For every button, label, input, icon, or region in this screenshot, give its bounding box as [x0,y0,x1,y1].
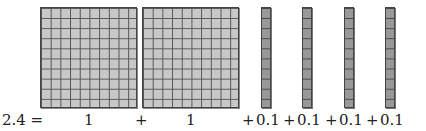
term-label-2: 1 [186,111,196,129]
plus-sign-1: + [135,111,148,129]
hundred-flat-1 [40,7,137,108]
plus-sign-4: + [325,111,338,129]
term-label-4: 0.1 [297,111,321,129]
tenth-rod-2 [302,7,312,108]
term-label-5: 0.1 [339,111,363,129]
plus-sign-3: + [283,111,296,129]
tenth-rod-3 [344,7,354,108]
hundred-flat-2 [142,7,239,108]
term-label-3: 0.1 [256,111,280,129]
term-label-1: 1 [84,111,94,129]
plus-sign-2: + [242,111,255,129]
tenth-rod-4 [385,7,395,108]
equation-lhs: 2.4 = [2,111,43,129]
plus-sign-5: + [366,111,379,129]
term-label-6: 0.1 [380,111,404,129]
tenth-rod-1 [261,7,271,108]
